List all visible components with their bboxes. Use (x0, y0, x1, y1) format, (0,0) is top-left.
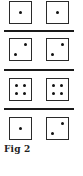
die-face-one (46, 1, 69, 24)
dice-row-1 (0, 1, 83, 25)
pip (19, 127, 22, 130)
pip (14, 53, 17, 56)
die-face-two (46, 117, 69, 140)
die-face-one (9, 117, 32, 140)
pip (24, 43, 27, 46)
divider-line (4, 30, 74, 32)
die-face-two (9, 38, 32, 61)
pip (60, 84, 63, 87)
pip (56, 11, 59, 14)
pip (61, 122, 64, 125)
die-face-four (9, 78, 32, 101)
divider-line (4, 108, 74, 110)
pip (23, 84, 26, 87)
pip (52, 84, 55, 87)
die-face-four (46, 78, 69, 101)
pip (52, 92, 55, 95)
die-face-one (9, 1, 32, 24)
dice-row-4 (0, 117, 83, 141)
divider-line (4, 69, 74, 71)
die-face-two (46, 38, 69, 61)
pip (51, 53, 54, 56)
dice-row-3 (0, 78, 83, 102)
figure-caption: Fig 2 (4, 144, 31, 154)
pip (60, 92, 63, 95)
pip (15, 92, 18, 95)
pip (19, 11, 22, 14)
pip (15, 84, 18, 87)
dice-row-2 (0, 38, 83, 62)
pip (23, 92, 26, 95)
pip (51, 132, 54, 135)
pip (61, 43, 64, 46)
